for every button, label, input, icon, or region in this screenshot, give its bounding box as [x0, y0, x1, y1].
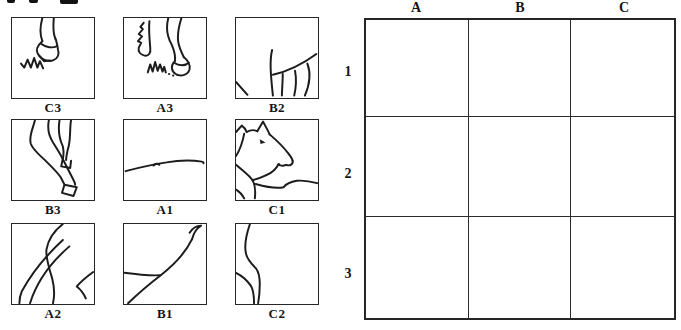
puzzle-piece: B1: [123, 223, 207, 322]
puzzle-piece: B3: [11, 119, 95, 218]
grid-cell-c1: [571, 20, 674, 117]
puzzle-piece: C2: [235, 223, 319, 322]
piece-label: A1: [123, 202, 207, 218]
piece-label: C3: [11, 100, 95, 116]
cropped-title-fragment: [7, 0, 15, 3]
grid-row-label-2: 2: [340, 166, 356, 182]
piece-drawing-belly-legs: [235, 17, 319, 99]
piece-drawing-back-line: [123, 119, 207, 201]
grid-column-label-b: B: [468, 0, 572, 16]
puzzle-piece: A2: [11, 223, 95, 322]
grid-column-label-c: C: [572, 0, 676, 16]
puzzle-piece: C3: [11, 17, 95, 116]
puzzle-piece: C1: [235, 119, 319, 218]
grid-cell-b1: [469, 20, 572, 117]
piece-drawing-hindquarters-tail: [11, 223, 95, 305]
puzzle-piece: A3: [123, 17, 207, 116]
piece-label: C2: [235, 306, 319, 322]
grid-cell-a1: [366, 20, 469, 117]
grid-cell-a2: [366, 117, 469, 217]
cropped-title-fragment: [29, 0, 38, 3]
piece-drawing-legs-grass: [123, 17, 207, 99]
grid-cell-a3: [366, 217, 469, 318]
grid-cell-b3: [469, 217, 572, 318]
piece-drawing-tail: [123, 223, 207, 305]
grid-row-label-1: 1: [340, 64, 356, 80]
puzzle-piece: B2: [235, 17, 319, 116]
grid-cell-b2: [469, 117, 572, 217]
piece-label: B2: [235, 100, 319, 116]
piece-drawing-crossed-legs: [11, 119, 95, 201]
piece-label: A2: [11, 306, 95, 322]
piece-label: B3: [11, 202, 95, 218]
piece-label: A3: [123, 100, 207, 116]
puzzle-piece: A1: [123, 119, 207, 218]
piece-label: B1: [123, 306, 207, 322]
worksheet-page: C3 A3: [0, 0, 681, 330]
cropped-title-fragment: [60, 0, 78, 4]
grid-cell-c2: [571, 117, 674, 217]
piece-drawing-front-leg: [235, 223, 319, 305]
grid-column-label-a: A: [364, 0, 468, 16]
answer-grid: [364, 18, 676, 320]
piece-drawing-hoof-grass: [11, 17, 95, 99]
grid-row-label-3: 3: [340, 266, 356, 282]
grid-cell-c3: [571, 217, 674, 318]
piece-drawing-horse-head: [235, 119, 319, 201]
piece-label: C1: [235, 202, 319, 218]
